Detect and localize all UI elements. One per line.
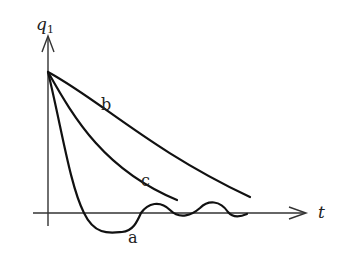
curve-a-label: a: [128, 228, 138, 247]
y-axis-label: q1: [36, 14, 54, 36]
curve-c-label: c: [141, 171, 150, 190]
x-axis-label: t: [318, 202, 325, 222]
curve-c: [48, 72, 177, 200]
curve-a: [48, 72, 247, 233]
curve-b-label: b: [101, 95, 111, 114]
damping-diagram: q1 t b c a: [0, 0, 346, 258]
